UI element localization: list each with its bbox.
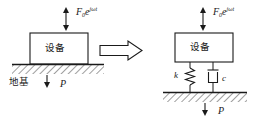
left-equipment-label: 设备: [45, 43, 65, 53]
foundation-label: 地基: [9, 77, 29, 87]
transform-arrow-icon: [100, 41, 142, 60]
right-equipment-label: 设备: [190, 42, 210, 52]
spring-element: [186, 62, 195, 92]
right-force-label: F0ejωt: [213, 6, 234, 18]
right-ground: [163, 93, 247, 103]
left-ground: [12, 65, 104, 75]
right-force-exponent: jωt: [227, 6, 235, 12]
damping-coefficient-label: c: [222, 74, 226, 83]
schematic-drawing: [0, 0, 269, 121]
damper-element: [208, 62, 219, 92]
left-force-exponent: jωt: [90, 6, 98, 12]
left-static-load-label: P: [60, 79, 66, 89]
left-force-label: F0ejωt: [76, 6, 97, 18]
figure-canvas: F0ejωt 设备 地基 P F0ejωt 设备 k c P: [0, 0, 269, 121]
spring-stiffness-label: k: [174, 71, 178, 80]
right-static-load-label: P: [218, 106, 224, 116]
